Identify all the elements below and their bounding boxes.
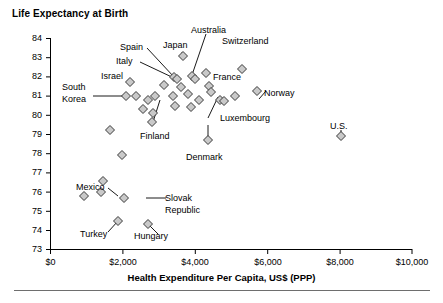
data-point — [132, 92, 141, 101]
point-label-norway: Norway — [264, 88, 295, 99]
x-tick-label: $2,000 — [100, 257, 146, 267]
point-label-finland: Finland — [140, 131, 170, 142]
y-tick-label: 80 — [20, 110, 42, 120]
data-point — [171, 102, 180, 111]
data-point — [160, 81, 169, 90]
point-label-slovak-line1: Slovak — [165, 193, 192, 204]
point-label-south-korea-line2: Korea — [62, 94, 86, 105]
data-point — [179, 52, 188, 61]
point-label-japan: Japan — [163, 40, 188, 51]
data-point — [184, 90, 193, 99]
y-tick-label: 77 — [20, 167, 42, 177]
y-tick-label: 82 — [20, 71, 42, 81]
data-point — [106, 126, 115, 135]
y-tick-label: 78 — [20, 148, 42, 158]
x-tick-label: $0 — [30, 257, 71, 267]
data-point — [80, 192, 89, 201]
data-point — [202, 69, 211, 78]
data-point — [169, 92, 178, 101]
point-label-switzerland: Switzerland — [222, 36, 269, 47]
y-tick-label: 83 — [20, 52, 42, 62]
data-point — [195, 96, 204, 105]
data-point — [149, 109, 158, 118]
point-label-hungary: Hungary — [134, 231, 168, 242]
point-label-luxembourg: Luxembourg — [220, 113, 270, 124]
point-label-mexico: Mexico — [76, 182, 105, 193]
y-tick-label: 73 — [20, 244, 42, 254]
y-tick-label: 74 — [20, 225, 42, 235]
point-label-turkey: Turkey — [80, 229, 107, 240]
y-tick-label: 81 — [20, 90, 42, 100]
point-label-israel: Israel — [101, 71, 123, 82]
data-point — [148, 118, 157, 127]
data-point — [231, 92, 240, 101]
x-tick-label: $6,000 — [245, 257, 291, 267]
data-point — [177, 83, 186, 92]
y-tick-label: 75 — [20, 206, 42, 216]
point-label-australia: Australia — [191, 25, 226, 36]
data-point — [204, 136, 213, 145]
footer-divider — [14, 290, 430, 291]
x-tick-label: $10,000 — [386, 257, 438, 267]
point-label-spain: Spain — [120, 42, 143, 53]
point-label-france: France — [213, 72, 241, 83]
y-tick-marks — [46, 39, 50, 250]
point-label-south-korea-line1: South — [62, 82, 86, 93]
point-label-denmark: Denmark — [186, 152, 223, 163]
x-tick-label: $4,000 — [172, 257, 218, 267]
x-axis-title: Health Expenditure Per Capita, US$ (PPP) — [0, 272, 443, 283]
data-point — [118, 151, 127, 160]
point-label-italy: Italy — [116, 56, 133, 67]
x-tick-label: $8,000 — [317, 257, 363, 267]
data-point — [126, 78, 135, 87]
figure: Life Expectancy at Birth — [0, 0, 443, 303]
data-point — [253, 87, 262, 96]
data-point — [187, 103, 196, 112]
y-tick-label: 84 — [20, 33, 42, 43]
y-tick-label: 79 — [20, 129, 42, 139]
data-point — [122, 92, 131, 101]
data-point — [139, 105, 148, 114]
y-tick-label: 76 — [20, 187, 42, 197]
point-label-us: U.S. — [330, 121, 348, 132]
data-point — [337, 132, 346, 141]
data-point — [120, 194, 129, 203]
point-label-slovak-line2: Republic — [165, 205, 200, 216]
